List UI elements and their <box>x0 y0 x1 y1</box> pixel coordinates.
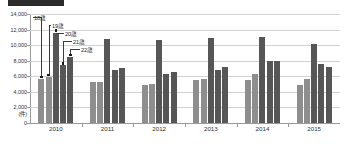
bar <box>38 79 44 123</box>
gridline <box>30 14 340 15</box>
x-axis-separator <box>185 123 186 127</box>
bar <box>208 38 214 123</box>
bar <box>171 72 177 123</box>
y-axis-tick-mark <box>27 123 30 124</box>
bar <box>156 40 162 123</box>
y-axis-tick-label: 10,000 <box>11 42 28 48</box>
gridline <box>30 107 340 108</box>
bar <box>297 85 303 123</box>
y-axis-tick-mark <box>27 76 30 77</box>
gridline <box>30 61 340 62</box>
gridline <box>30 92 340 93</box>
callout-marker-22歳 <box>69 54 72 57</box>
y-axis-tick-label: 6,000 <box>14 73 28 79</box>
bar-group-2014 <box>245 14 280 123</box>
callout-marker-21歳 <box>62 62 65 65</box>
x-axis-label-2012: 2012 <box>152 125 166 132</box>
bar <box>274 61 280 123</box>
callout-marker-19歳 <box>47 74 50 77</box>
x-axis-label-2010: 2010 <box>49 125 63 132</box>
x-axis-label-2013: 2013 <box>204 125 218 132</box>
bar <box>112 70 118 123</box>
callout-marker-20歳 <box>55 29 58 32</box>
bar <box>259 37 265 123</box>
bar-group-2011 <box>90 14 125 123</box>
callout-label-18歳: 18歳 <box>34 14 46 22</box>
y-axis-unit-label: (件) <box>18 110 27 118</box>
y-axis-tick-label: 8,000 <box>14 58 28 64</box>
bar <box>245 80 251 123</box>
y-axis-tick-mark <box>27 30 30 31</box>
bar <box>53 33 59 123</box>
x-axis-label-2014: 2014 <box>256 125 270 132</box>
x-axis-separator <box>288 123 289 127</box>
bar <box>222 67 228 123</box>
bar <box>215 70 221 123</box>
bar <box>149 84 155 123</box>
bar <box>67 57 73 123</box>
bar <box>46 77 52 123</box>
y-axis-tick-label: 14,000 <box>11 11 28 17</box>
bar <box>97 82 103 123</box>
bar <box>201 79 207 123</box>
callout-label-22歳: 22歳 <box>81 46 93 54</box>
bar <box>304 79 310 123</box>
y-axis-tick-mark <box>27 14 30 15</box>
callout-leader-vertical <box>63 41 64 64</box>
y-axis-tick-mark <box>27 61 30 62</box>
bar-chart: 14,00012,00010,0008,0006,0004,0002,0000(… <box>0 0 348 151</box>
callout-leader-horizontal <box>33 17 41 18</box>
bar <box>90 82 96 123</box>
x-axis-label-2015: 2015 <box>307 125 321 132</box>
y-axis-tick-label: 12,000 <box>11 27 28 33</box>
callout-label-20歳: 20歳 <box>65 30 77 38</box>
bar <box>104 39 110 123</box>
callout-leader-horizontal <box>56 33 64 34</box>
x-axis-separator <box>82 123 83 127</box>
bar <box>318 64 324 123</box>
x-axis-label-2011: 2011 <box>101 125 114 132</box>
x-axis-separator <box>133 123 134 127</box>
y-axis-tick-mark <box>27 107 30 108</box>
bar <box>193 80 199 123</box>
callout-leader-vertical <box>56 33 57 34</box>
bar-group-2013 <box>193 14 228 123</box>
bar <box>163 74 169 123</box>
bar <box>311 44 317 123</box>
callout-leader-horizontal <box>63 41 72 42</box>
callout-leader-horizontal <box>70 49 80 50</box>
y-axis-tick-mark <box>27 45 30 46</box>
bar <box>267 61 273 123</box>
x-axis-separator <box>237 123 238 127</box>
bar <box>326 67 332 123</box>
callout-leader-vertical <box>49 25 50 76</box>
bar <box>142 85 148 123</box>
callout-leader-vertical <box>41 17 42 78</box>
y-axis-tick-label: 4,000 <box>14 89 28 95</box>
cropped-header-band <box>8 0 64 6</box>
y-axis-tick-labels: 14,00012,00010,0008,0006,0004,0002,0000(… <box>0 14 27 124</box>
bar <box>60 65 66 123</box>
bar <box>119 68 125 123</box>
callout-marker-18歳 <box>40 76 43 79</box>
callout-label-21歳: 21歳 <box>73 38 85 46</box>
bar <box>252 74 258 123</box>
y-axis-tick-mark <box>27 92 30 93</box>
bar-group-2015 <box>297 14 332 123</box>
bar-group-2012 <box>142 14 177 123</box>
gridline <box>30 76 340 77</box>
